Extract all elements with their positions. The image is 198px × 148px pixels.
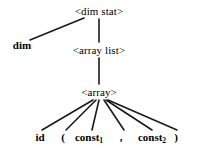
tree-node-array_list: <array list> <box>73 45 125 56</box>
tree-edge-array-to-const2 <box>106 100 152 130</box>
tree-node-id: id <box>35 132 44 143</box>
tree-node-label: ( <box>61 131 65 143</box>
tree-edge-array-to-id <box>42 100 93 130</box>
tree-node-label: <dim stat> <box>75 5 124 17</box>
tree-node-label: const <box>75 131 99 143</box>
tree-node-subscript: 2 <box>162 136 166 145</box>
tree-edge-array-to-rparen <box>108 100 177 130</box>
tree-node-comma: , <box>120 132 123 143</box>
tree-node-label: const <box>138 131 162 143</box>
tree-node-label: ) <box>174 131 178 143</box>
tree-node-label: id <box>35 131 44 143</box>
tree-node-const1: const1 <box>75 132 103 143</box>
tree-node-dim_stat: <dim stat> <box>75 6 124 17</box>
tree-node-rparen: ) <box>174 132 178 143</box>
parse-tree-diagram: <dim stat>dim<array list><array>id(const… <box>0 0 198 148</box>
tree-node-subscript: 1 <box>99 136 103 145</box>
tree-edge-array-to-lparen <box>66 100 96 130</box>
tree-node-const2: const2 <box>138 132 166 143</box>
tree-node-label: <array> <box>81 86 117 98</box>
tree-node-label: , <box>120 131 123 143</box>
tree-edge-array-to-const1 <box>92 100 99 130</box>
tree-edges-layer <box>0 0 198 148</box>
tree-edge-dim_stat-to-dim <box>30 18 84 40</box>
tree-node-dim: dim <box>13 40 31 51</box>
tree-node-array: <array> <box>81 87 117 98</box>
tree-node-lparen: ( <box>61 132 65 143</box>
tree-node-label: <array list> <box>73 44 125 56</box>
tree-node-label: dim <box>13 39 31 51</box>
